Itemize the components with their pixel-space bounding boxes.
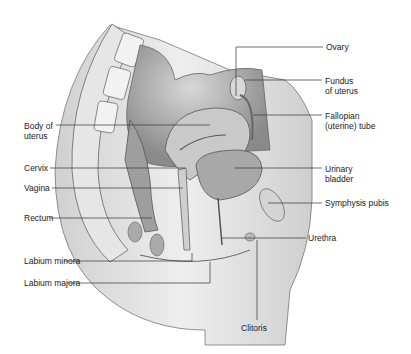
label-body-of-uterus: Body of uterus [24,121,53,141]
label-labium-majora: Labium majora [24,278,80,288]
label-symphysis-pubis: Symphysis pubis [325,198,389,208]
label-vagina: Vagina [24,183,50,193]
label-fundus-of-uterus: Fundus of uterus [325,76,358,96]
label-cervix: Cervix [24,163,48,173]
label-labium-minora: Labium minora [24,256,80,266]
label-fallopian-tube: Fallopian (uterine) tube [325,111,376,131]
feces [150,234,164,256]
label-ovary: Ovary [326,42,349,52]
clitoris [245,233,255,241]
label-urinary-bladder: Urinary bladder [325,164,353,184]
label-urethra: Urethra [308,233,336,243]
feces [128,222,142,242]
label-clitoris: Clitoris [241,323,267,333]
label-rectum: Rectum [24,213,53,223]
